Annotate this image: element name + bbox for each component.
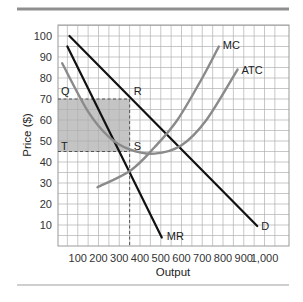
y-tick-label: 60 [40,114,52,126]
y-tick-label: 70 [40,93,52,105]
y-tick-label: 30 [40,177,52,189]
y-tick-label: 20 [40,198,52,210]
y-tick-label: 80 [40,72,52,84]
label-mc: MC [223,39,240,51]
y-tick-label: 90 [40,51,52,63]
label-s: S [134,140,141,152]
x-tick-label: 800 [214,252,232,264]
label-mr: MR [167,230,184,242]
x-axis-title: Output [156,266,191,278]
y-tick-label: 10 [40,219,52,231]
y-axis-title: Price ($) [21,113,33,157]
x-tick-label: 200 [89,252,107,264]
x-tick-label: 300 [110,252,128,264]
label-r: R [134,85,142,97]
label-d: D [261,220,269,232]
x-tick-label: 600 [172,252,190,264]
x-tick-label: 100 [69,252,87,264]
x-tick-label: 1,000 [251,252,279,264]
y-tick-label: 50 [40,135,52,147]
y-tick-label: 100 [34,30,52,42]
label-q: Q [61,85,70,97]
y-tick-label: 40 [40,156,52,168]
label-atc: ATC [242,64,263,76]
label-t: T [61,140,68,152]
x-tick-label: 700 [193,252,211,264]
x-tick-label: 400 [131,252,149,264]
x-tick-label: 500 [152,252,170,264]
economics-chart: 1002003004005006007008009001,00010203040… [0,0,303,302]
